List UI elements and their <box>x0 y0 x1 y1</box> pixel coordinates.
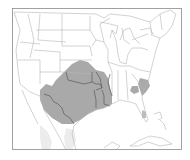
range-map <box>0 0 190 160</box>
